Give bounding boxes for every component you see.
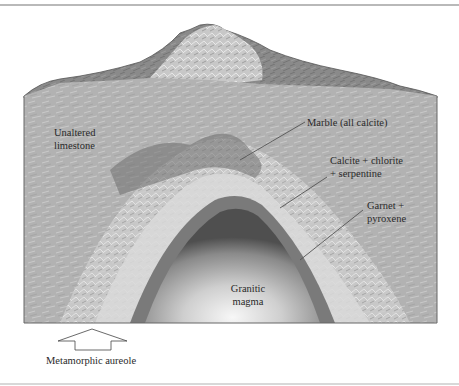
label-line: Granitic — [223, 283, 273, 296]
bottom-rule — [0, 383, 459, 385]
label-garnet-pyroxene: Garnet + pyroxene — [367, 200, 406, 225]
aureole-arrow-icon — [58, 329, 127, 350]
label-line: limestone — [54, 140, 95, 153]
label-line: magma — [223, 296, 273, 309]
label-line: + serpentine — [330, 168, 403, 181]
cross-section-diagram — [0, 0, 459, 386]
label-line: Calcite + chlorite — [330, 155, 403, 168]
label-line: Unaltered — [54, 127, 95, 140]
label-line: Garnet + — [367, 200, 406, 213]
label-marble: Marble (all calcite) — [307, 117, 387, 130]
label-unaltered-limestone: Unaltered limestone — [54, 127, 95, 152]
label-granitic-magma: Granitic magma — [223, 283, 273, 308]
label-calcite-chlorite-serpentine: Calcite + chlorite + serpentine — [330, 155, 403, 180]
label-metamorphic-aureole: Metamorphic aureole — [46, 355, 136, 368]
label-line: pyroxene — [367, 213, 406, 226]
